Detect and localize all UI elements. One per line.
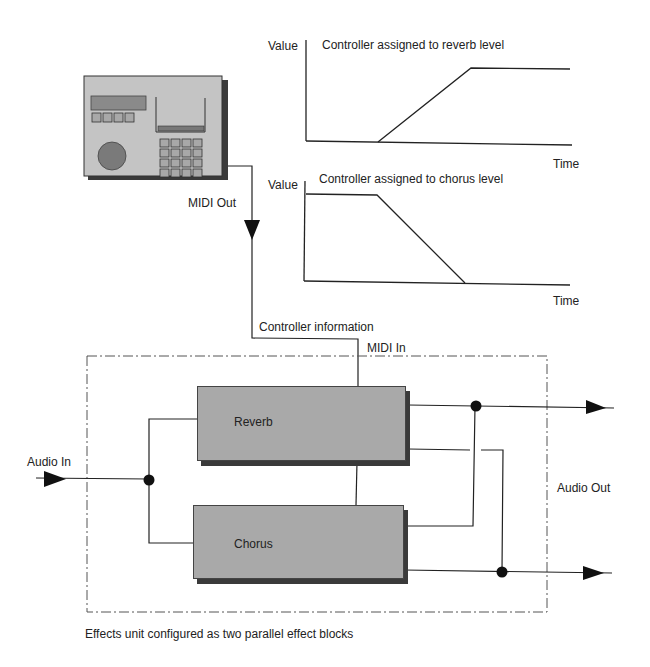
graph-chorus-title: Controller assigned to chorus level [319, 172, 503, 186]
midi-cable [220, 166, 358, 386]
output-junction-bottom [497, 567, 508, 578]
midi-in-label: MIDI In [367, 341, 406, 355]
audio-out-label: Audio Out [557, 481, 610, 495]
graph-reverb-x-label: Time [553, 157, 579, 171]
midi-controller-device [84, 76, 228, 180]
graph-chorus-curve [306, 194, 465, 283]
midi-out-label: MIDI Out [188, 196, 236, 210]
block-link [356, 462, 357, 505]
chorus-block-label: Chorus [234, 537, 273, 551]
graph-reverb [306, 40, 572, 145]
split-junction [144, 475, 155, 486]
device-knob [98, 142, 126, 170]
chorus-block: Chorus [193, 505, 404, 579]
graph-chorus-x-axis [304, 281, 570, 285]
audio-in-arrow-icon [44, 471, 66, 487]
graph-chorus-x-label: Time [553, 294, 579, 308]
device-display [91, 96, 146, 110]
graph-reverb-y-label: Value [268, 39, 298, 53]
audio-in-label: Audio In [27, 455, 71, 469]
graph-reverb-title: Controller assigned to reverb level [322, 38, 504, 52]
graph-reverb-x-axis [306, 141, 572, 145]
controller-information-label: Controller information [259, 320, 374, 334]
graph-chorus-y-axis [304, 181, 305, 281]
midi-arrow-icon [244, 220, 260, 240]
reverb-block-label: Reverb [234, 415, 273, 429]
audio-out-arrow-top-icon [586, 400, 606, 414]
reverb-block: Reverb [197, 386, 406, 461]
graph-reverb-curve [378, 68, 570, 142]
audio-out-arrow-bottom-icon [583, 566, 604, 580]
graph-chorus [304, 181, 570, 285]
graph-chorus-y-label: Value [268, 178, 298, 192]
figure-caption: Effects unit configured as two parallel … [85, 627, 353, 641]
output-junction-top [471, 401, 482, 412]
